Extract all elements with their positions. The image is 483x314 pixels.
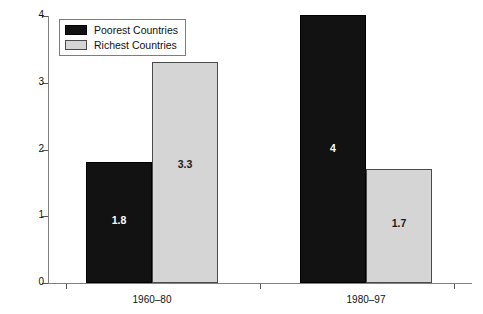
y-tick-label-3: 3 <box>38 76 44 87</box>
x-group-label-1980-97: 1980–97 <box>347 294 386 305</box>
y-tick-label-0: 0 <box>38 276 44 287</box>
bar-richest-1980-97: 1.7 <box>366 169 432 283</box>
legend-item-poorest: Poorest Countries <box>65 24 178 36</box>
bar-chart: Billions of U.S. Dollars 0 1 2 3 4 <box>0 0 483 314</box>
y-tick-label-2: 2 <box>38 143 44 154</box>
legend: Poorest Countries Richest Countries <box>59 19 186 56</box>
legend-item-richest: Richest Countries <box>65 39 178 51</box>
bar-richest-1960-80: 3.3 <box>152 62 218 283</box>
y-tick-label-4: 4 <box>38 9 44 20</box>
bar-value-richest-1980-97: 1.7 <box>392 217 407 229</box>
legend-label-richest: Richest Countries <box>94 39 177 51</box>
bar-value-poorest-1960-80: 1.8 <box>112 214 127 226</box>
bar-poorest-1960-80: 1.8 <box>86 162 152 283</box>
legend-swatch-richest-icon <box>65 40 87 50</box>
legend-label-poorest: Poorest Countries <box>94 24 178 36</box>
legend-swatch-poorest-icon <box>65 25 87 35</box>
y-axis-line <box>48 16 49 284</box>
plot-area: 0 1 2 3 4 1.8 <box>48 16 472 284</box>
x-group-label-1960-80: 1960–80 <box>133 294 172 305</box>
bar-value-richest-1960-80: 3.3 <box>178 158 193 170</box>
y-tick-label-1: 1 <box>38 209 44 220</box>
bar-value-poorest-1980-97: 4 <box>330 142 336 154</box>
bar-poorest-1980-97: 4 <box>300 15 366 283</box>
